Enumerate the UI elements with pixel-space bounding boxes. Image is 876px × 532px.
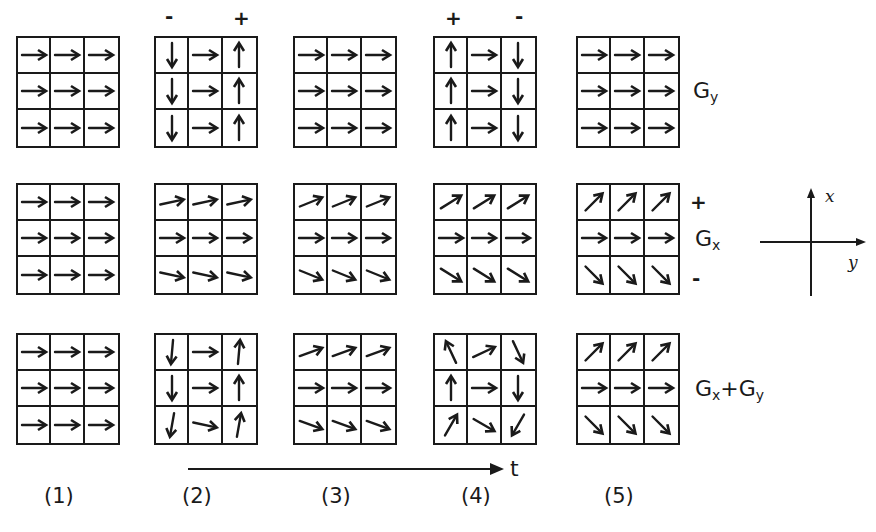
arrow-icon [224,410,254,440]
row-label-gx-plus-gy: Gx+Gy [695,378,764,402]
grid-cell [18,110,51,146]
arrow-icon [224,113,254,143]
grid-cell [223,371,256,407]
arrow-icon [86,260,116,290]
grid-cell [468,221,501,257]
grid-cell [468,185,501,221]
grid-cell [51,185,84,221]
arrow-icon [469,410,499,440]
arrow-icon [579,337,609,367]
arrow-icon [436,223,466,253]
grid-cell [189,407,222,443]
grid-cell [362,38,395,74]
col4-plus-sign: + [445,8,462,28]
arrow-icon [224,260,254,290]
arrow-icon [469,337,499,367]
grid-cell [435,185,468,221]
arrow-icon [579,410,609,440]
grid-cell [468,335,501,371]
grid-gx-col4 [433,183,537,295]
grid-cell [156,335,189,371]
grid-cell [611,407,644,443]
arrow-icon [329,113,359,143]
arrow-icon [52,260,82,290]
grid-cell [502,371,535,407]
arrow-icon [86,337,116,367]
arrow-icon [157,410,187,440]
grid-cell [189,221,222,257]
grid-cell [156,407,189,443]
arrow-icon [296,410,326,440]
arrow-icon [612,373,642,403]
grid-cell [295,74,328,110]
col2-plus-sign: + [233,8,250,28]
grid-cell [611,38,644,74]
arrow-icon [363,187,393,217]
grid-cell [502,407,535,443]
grid-cell [156,257,189,293]
coordinate-axes-icon [758,188,868,298]
arrow-icon [436,337,466,367]
arrow-icon [52,187,82,217]
grid-cell [328,185,361,221]
grid-cell [468,257,501,293]
grid-gy-col5 [576,36,680,148]
arrow-icon [157,337,187,367]
grid-cell [18,335,51,371]
arrow-icon [469,187,499,217]
arrow-icon [469,223,499,253]
grid-cell [295,257,328,293]
grid-cell [51,335,84,371]
grid-cell [578,110,611,146]
grid-cell [51,74,84,110]
arrow-icon [190,373,220,403]
grid-cell [578,371,611,407]
grid-gx-col1 [16,183,120,295]
grid-cell [645,371,678,407]
grid-cell [362,335,395,371]
arrow-icon [157,76,187,106]
arrow-icon [503,337,533,367]
arrow-icon [503,373,533,403]
grid-cell [328,74,361,110]
arrow-icon [646,223,676,253]
grid-cell [295,371,328,407]
arrow-icon [86,410,116,440]
grid-cell [502,74,535,110]
arrow-icon [19,337,49,367]
grid-gx-plus-gy-col4 [433,333,537,445]
grid-cell [578,257,611,293]
arrow-icon [646,76,676,106]
grid-cell [18,257,51,293]
grid-cell [328,38,361,74]
grid-cell [85,110,118,146]
grid-cell [85,185,118,221]
arrow-icon [646,113,676,143]
arrow-icon [646,260,676,290]
grid-gx-plus-gy-col2 [154,333,258,445]
col2-minus-sign: - [165,6,173,26]
arrow-icon [329,187,359,217]
grid-cell [223,221,256,257]
col4-minus-sign: - [515,6,523,26]
axis-label-x: x [825,186,835,206]
grid-gx-plus-gy-col1 [16,333,120,445]
arrow-icon [157,223,187,253]
arrow-icon [190,187,220,217]
grid-cell [502,335,535,371]
arrow-icon [612,260,642,290]
grid-cell [223,407,256,443]
arrow-icon [224,187,254,217]
arrow-icon [19,410,49,440]
arrow-icon [19,373,49,403]
arrow-icon [646,410,676,440]
grid-cell [435,407,468,443]
grid-cell [156,371,189,407]
grid-cell [51,407,84,443]
grid-gx-col3 [293,183,397,295]
arrow-icon [329,373,359,403]
grid-cell [223,335,256,371]
grid-cell [189,257,222,293]
arrow-icon [579,40,609,70]
arrow-icon [329,223,359,253]
